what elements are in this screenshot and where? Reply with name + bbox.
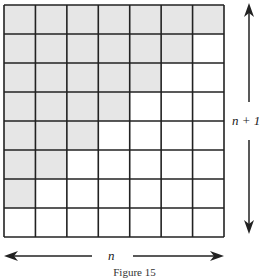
shaded-cell — [193, 5, 224, 34]
shaded-cell — [98, 34, 129, 63]
empty-cell — [98, 150, 129, 179]
shaded-cell — [98, 63, 129, 92]
empty-cell — [193, 63, 224, 92]
shaded-cell — [130, 34, 161, 63]
width-label: n — [108, 248, 115, 264]
empty-cell — [193, 150, 224, 179]
shaded-cell — [4, 5, 35, 34]
shaded-cell — [4, 150, 35, 179]
shaded-cell — [35, 92, 66, 121]
shaded-cell — [161, 34, 192, 63]
shaded-cell — [130, 63, 161, 92]
shaded-cell — [4, 34, 35, 63]
shaded-cell — [4, 179, 35, 208]
empty-cell — [67, 208, 98, 237]
empty-cell — [193, 92, 224, 121]
empty-cell — [193, 121, 224, 150]
shaded-cell — [67, 121, 98, 150]
empty-cell — [161, 150, 192, 179]
shaded-cell — [35, 63, 66, 92]
empty-cell — [4, 208, 35, 237]
shaded-cell — [67, 34, 98, 63]
empty-cell — [161, 92, 192, 121]
empty-cell — [98, 121, 129, 150]
empty-cell — [130, 208, 161, 237]
shaded-cell — [4, 121, 35, 150]
shaded-cell — [67, 92, 98, 121]
empty-cell — [130, 179, 161, 208]
empty-cell — [161, 121, 192, 150]
empty-cell — [35, 208, 66, 237]
empty-cell — [98, 179, 129, 208]
empty-cell — [67, 150, 98, 179]
empty-cell — [130, 92, 161, 121]
empty-cell — [193, 179, 224, 208]
shaded-cell — [4, 92, 35, 121]
empty-cell — [161, 179, 192, 208]
empty-cell — [161, 208, 192, 237]
empty-cell — [98, 208, 129, 237]
empty-cell — [35, 179, 66, 208]
shaded-cell — [35, 121, 66, 150]
shaded-cell — [161, 5, 192, 34]
empty-cell — [67, 179, 98, 208]
empty-cell — [130, 150, 161, 179]
staircase-grid-diagram — [0, 0, 269, 278]
height-label: n + 1 — [232, 113, 260, 129]
shaded-cell — [67, 5, 98, 34]
shaded-cell — [130, 5, 161, 34]
empty-cell — [193, 208, 224, 237]
shaded-cell — [67, 63, 98, 92]
shaded-cell — [4, 63, 35, 92]
empty-cell — [193, 34, 224, 63]
shaded-cell — [35, 5, 66, 34]
shaded-cell — [98, 5, 129, 34]
empty-cell — [130, 121, 161, 150]
shaded-cell — [35, 150, 66, 179]
shaded-cell — [98, 92, 129, 121]
figure-caption: Figure 15 — [0, 266, 269, 278]
shaded-cell — [35, 34, 66, 63]
empty-cell — [161, 63, 192, 92]
